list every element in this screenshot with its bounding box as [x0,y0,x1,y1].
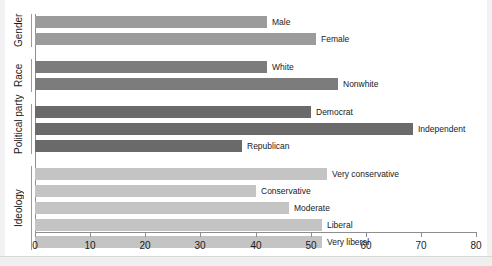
bar [35,219,322,231]
x-axis-tick [145,233,146,237]
group-label-gender: Gender [13,14,24,47]
group-tick [31,166,32,250]
page-edge-right [487,0,492,266]
x-axis-tick [366,233,367,237]
x-axis-tick [421,233,422,237]
bar-value-label: Very conservative [332,170,399,179]
x-axis-tick [200,233,201,237]
x-axis-tick-label: 40 [250,240,261,251]
bar-value-label: Independent [418,125,465,134]
bar-value-label: Moderate [294,204,330,213]
bar [35,168,327,180]
bar-value-label: Liberal [327,221,353,230]
x-axis-tick [256,233,257,237]
chart-title-remnant [205,0,295,5]
bar-value-label: White [272,63,294,72]
bar-value-label: Republican [247,142,290,151]
page-edge-bottom-divider [0,256,492,257]
group-tick [31,14,32,47]
x-axis-tick-label: 50 [305,240,316,251]
x-axis-tick-label: 0 [32,240,38,251]
x-axis-tick-label: 20 [139,240,150,251]
x-axis-tick-label: 60 [360,240,371,251]
bar [35,140,242,152]
group-label-ideology: Ideology [13,166,24,250]
x-axis-tick [476,233,477,237]
bar [35,236,322,248]
group-tick [31,59,32,92]
page-edge-bottom [0,256,492,266]
x-axis-tick-label: 30 [194,240,205,251]
page-edge-left [0,0,5,266]
group-tick [31,104,32,154]
bar [35,106,311,118]
x-axis-tick [35,233,36,237]
bar-value-label: Conservative [261,187,311,196]
bar-value-label: Female [321,35,349,44]
x-axis-tick [311,233,312,237]
bar [35,185,256,197]
x-axis-tick [90,233,91,237]
x-axis-tick-label: 10 [84,240,95,251]
bar [35,61,267,73]
bar [35,123,413,135]
bar-value-label: Nonwhite [343,80,378,89]
group-label-race: Race [13,59,24,92]
x-axis-tick-label: 70 [415,240,426,251]
bar-value-label: Democrat [316,108,353,117]
bar [35,33,316,45]
bar [35,202,289,214]
bar-chart-figure: MaleFemaleGenderWhiteNonwhiteRaceDemocra… [0,0,492,266]
bar-value-label: Male [272,18,290,27]
bar [35,16,267,28]
group-label-political-party: Political party [13,104,24,154]
bar [35,78,338,90]
x-axis-tick-label: 80 [470,240,481,251]
